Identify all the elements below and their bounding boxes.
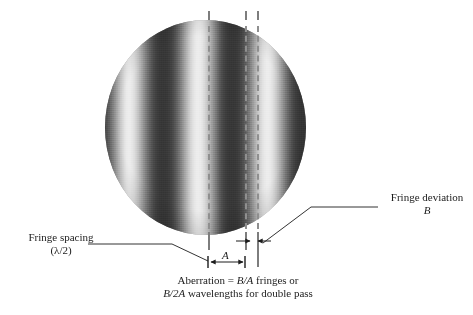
caption-line1-prefix: Aberration = — [177, 274, 236, 286]
caption-line2-math: B/2A — [163, 287, 185, 299]
caption-line-2: B/2A wavelengths for double pass — [138, 287, 338, 300]
fringe-spacing-label-line2: (λ/2) — [6, 244, 116, 257]
dimension-label-a: A — [222, 249, 229, 262]
fringe-deviation-label-line1: Fringe deviation — [381, 191, 473, 204]
fringe-deviation-label-line2: B — [381, 204, 473, 217]
caption-line1-math: B/A — [237, 274, 254, 286]
fringe-spacing-label-line1: Fringe spacing — [6, 231, 116, 244]
figure-caption: Aberration = B/A fringes or B/2A wavelen… — [138, 274, 338, 300]
figure-canvas: Fringe spacing (λ/2) Fringe deviation B … — [0, 0, 473, 315]
fringe-spacing-label: Fringe spacing (λ/2) — [6, 231, 116, 257]
fringe-deviation-label: Fringe deviation B — [381, 191, 473, 217]
leader-line-fringe-deviation — [263, 207, 378, 243]
caption-line1-suffix: fringes or — [253, 274, 298, 286]
caption-line2-suffix: wavelengths for double pass — [185, 287, 313, 299]
annotation-overlay — [0, 0, 473, 315]
caption-line-1: Aberration = B/A fringes or — [138, 274, 338, 287]
